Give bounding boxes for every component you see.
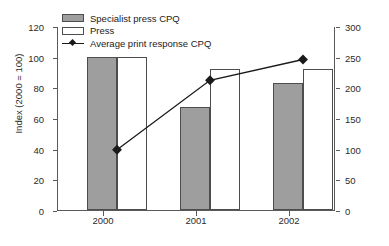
y2-axis-tick-mark <box>336 27 340 28</box>
legend-line-diamond-icon <box>62 39 84 48</box>
y2-axis-tick-label: 300 <box>345 23 361 33</box>
legend-swatch-icon-press <box>62 27 84 35</box>
line-marker-2000 <box>112 145 122 155</box>
line-path <box>117 60 303 150</box>
y2-axis-tick-label: 150 <box>345 115 361 125</box>
legend-swatch-icon-specialist <box>62 14 84 22</box>
line-marker-2002 <box>298 55 308 65</box>
y2-axis-tick-mark <box>336 58 340 59</box>
line-series-average-print-response <box>58 27 336 211</box>
line-marker-2001 <box>205 75 215 85</box>
x-axis-tick-label: 2002 <box>259 216 319 226</box>
x-axis-tick-label: 2001 <box>166 216 226 226</box>
y2-axis-tick-mark <box>336 88 340 89</box>
y-axis-tick-label: 20 <box>33 176 44 186</box>
y-axis-title: Index (2000 = 100) <box>13 24 24 164</box>
plot-area <box>57 27 335 211</box>
y2-axis-tick-label: 200 <box>345 84 361 94</box>
legend-label: Average print response CPQ <box>90 38 211 49</box>
y2-axis-tick-mark <box>336 119 340 120</box>
legend-item-average-print-response-cpq: Average print response CPQ <box>62 37 211 50</box>
x-axis-tick-label: 2000 <box>73 216 133 226</box>
y-axis-tick-label: 60 <box>33 115 44 125</box>
y2-axis-tick-label: 50 <box>345 176 356 186</box>
legend-item-press: Press <box>62 25 211 38</box>
legend-label: Specialist press CPQ <box>90 13 180 24</box>
legend-label: Press <box>90 25 114 36</box>
chart-container: Index (2000 = 100) 120 100 80 60 40 20 0… <box>0 0 389 246</box>
legend: Specialist press CPQ Press Average print… <box>62 12 211 50</box>
y-axis-tick-mark <box>53 211 57 212</box>
y-axis-tick-label: 40 <box>33 146 44 156</box>
y2-axis-tick-mark <box>336 180 340 181</box>
y-axis-tick-label: 120 <box>28 23 44 33</box>
y2-axis-tick-mark <box>336 211 340 212</box>
y-axis-tick-label: 80 <box>33 84 44 94</box>
y2-axis-tick-label: 0 <box>345 207 350 217</box>
legend-item-specialist-press-cpq: Specialist press CPQ <box>62 12 211 25</box>
y-axis-tick-label: 0 <box>39 207 44 217</box>
y-axis-tick-label: 100 <box>28 54 44 64</box>
y2-axis-tick-label: 250 <box>345 54 361 64</box>
y2-axis-tick-mark <box>336 150 340 151</box>
y2-axis-tick-label: 100 <box>345 146 361 156</box>
